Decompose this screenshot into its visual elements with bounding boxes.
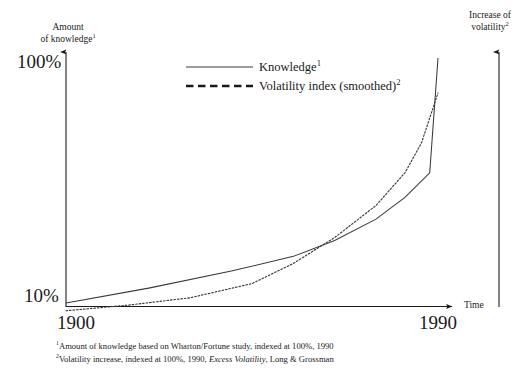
x-tick-1900: 1900 — [57, 312, 95, 334]
y-axis-left-caption-line2: of knowledge — [40, 34, 92, 44]
y-axis-right-caption: Increase of volatility2 — [452, 10, 528, 34]
series-line-volatility — [66, 93, 438, 311]
footnote-2-text-after: , Long & Grossman — [265, 354, 333, 364]
legend-item-knowledge: Knowledge1 — [259, 60, 321, 74]
footnote-1: 1Amount of knowledge based on Wharton/Fo… — [56, 340, 334, 353]
legend-item-volatility: Volatility index (smoothed)2 — [259, 79, 401, 93]
x-tick-1990: 1990 — [419, 312, 457, 334]
x-axis-label: Time — [464, 300, 484, 311]
y-tick-100: 100% — [17, 51, 61, 73]
footnote-2-text-before: Volatility increase, indexed at 100%, 19… — [59, 354, 209, 364]
chart-page: Amount of knowledge1 Increase of volatil… — [0, 0, 531, 373]
footnote-2-text-italic: Excess Volatility — [209, 354, 266, 364]
legend-label-volatility: Volatility index (smoothed) — [259, 79, 396, 93]
y-axis-right-caption-marker: 2 — [506, 20, 509, 27]
legend-marker-volatility: 2 — [396, 77, 400, 87]
legend-label-knowledge: Knowledge — [259, 60, 317, 74]
y-axis-left-caption: Amount of knowledge1 — [22, 22, 114, 46]
y-axis-left-caption-line1: Amount — [52, 22, 83, 32]
footnote-2: 2Volatility increase, indexed at 100%, 1… — [56, 353, 334, 366]
legend-marker-knowledge: 1 — [317, 58, 321, 68]
y-axis-right-caption-line1: Increase of — [469, 10, 511, 20]
y-axis-right-caption-line2: volatility — [471, 22, 505, 32]
y-tick-10: 10% — [24, 285, 59, 307]
footnote-1-text: Amount of knowledge based on Wharton/For… — [59, 341, 334, 351]
y-axis-left-caption-marker: 1 — [92, 32, 95, 39]
series-line-knowledge — [66, 58, 438, 303]
